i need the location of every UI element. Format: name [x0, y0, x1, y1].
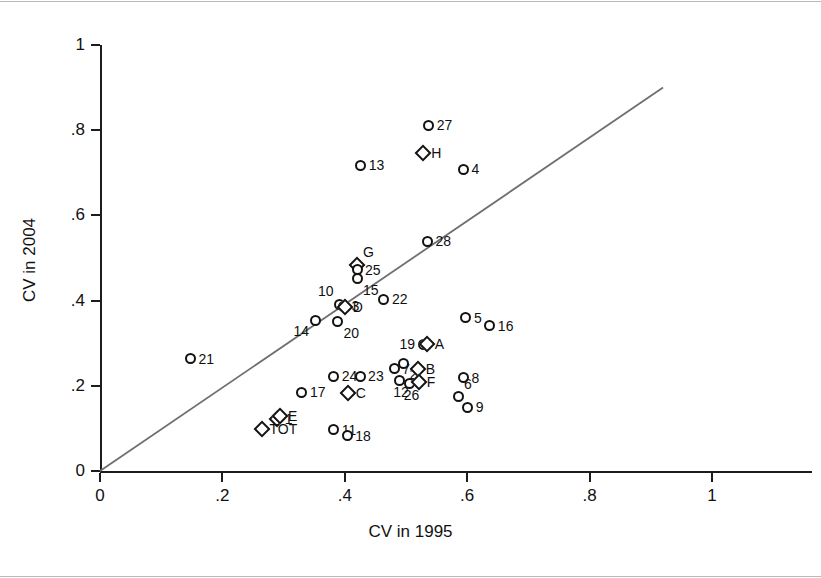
- x-axis-label: CV in 1995: [0, 522, 821, 542]
- x-tick-label: 1: [692, 487, 732, 504]
- x-tick-label: .4: [325, 487, 365, 504]
- circle-marker: [458, 164, 469, 175]
- point-label: 18: [355, 429, 371, 443]
- x-tick: [344, 473, 346, 482]
- circle-marker: [328, 424, 339, 435]
- point-label: C: [356, 386, 366, 400]
- point-label: 6: [464, 377, 472, 391]
- circle-marker: [310, 315, 321, 326]
- point-label: 21: [199, 352, 215, 366]
- circle-marker: [398, 358, 409, 369]
- circle-marker: [355, 160, 366, 171]
- y-tick-label: 1: [45, 36, 85, 53]
- y-tick-label: .4: [45, 292, 85, 309]
- diamond-marker: [339, 385, 356, 402]
- point-label: H: [431, 146, 441, 160]
- point-label: 25: [365, 263, 381, 277]
- x-tick: [221, 473, 223, 482]
- circle-marker: [355, 371, 366, 382]
- x-tick: [711, 473, 713, 482]
- x-axis-line: [100, 471, 812, 473]
- circle-marker: [462, 402, 473, 413]
- point-label: F: [427, 375, 436, 389]
- y-tick-label: .6: [45, 206, 85, 223]
- point-label: TOT: [270, 422, 298, 436]
- y-tick: [91, 44, 100, 46]
- circle-marker: [352, 273, 363, 284]
- point-label: 5: [474, 311, 482, 325]
- point-label: D: [353, 300, 363, 314]
- scatter-plot: 0.2.4.6.810.2.4.6.81 211327H428G25152210…: [0, 0, 821, 578]
- y-tick-label: .2: [45, 377, 85, 394]
- point-label: 8: [472, 371, 480, 385]
- circle-marker: [378, 294, 389, 305]
- y-tick-label: .8: [45, 121, 85, 138]
- circle-marker: [332, 316, 343, 327]
- point-label: 15: [363, 283, 379, 297]
- circle-marker: [185, 353, 196, 364]
- x-tick: [99, 473, 101, 482]
- point-label: 17: [310, 385, 326, 399]
- point-label: 22: [392, 292, 408, 306]
- y-tick: [91, 214, 100, 216]
- y-tick: [91, 129, 100, 131]
- circle-marker: [460, 312, 471, 323]
- point-label: 27: [437, 118, 453, 132]
- circle-marker: [484, 320, 495, 331]
- y-tick: [91, 385, 100, 387]
- point-label: G: [363, 245, 374, 259]
- circle-marker: [342, 430, 353, 441]
- diamond-marker: [415, 144, 432, 161]
- y-axis-line: [100, 45, 102, 473]
- point-label: 10: [318, 284, 334, 298]
- point-label: 13: [369, 158, 385, 172]
- x-tick: [466, 473, 468, 482]
- point-label: 20: [343, 326, 359, 340]
- circle-marker: [328, 371, 339, 382]
- circle-marker: [422, 236, 433, 247]
- x-tick-label: .8: [570, 487, 610, 504]
- point-label: 16: [498, 319, 514, 333]
- point-label: 26: [404, 388, 420, 402]
- x-tick: [589, 473, 591, 482]
- point-label: 4: [472, 162, 480, 176]
- circle-marker: [296, 387, 307, 398]
- circle-marker: [423, 120, 434, 131]
- point-label: 19: [400, 337, 416, 351]
- point-label: A: [435, 337, 444, 351]
- x-tick-label: .2: [202, 487, 242, 504]
- y-tick: [91, 300, 100, 302]
- chart-page: 0.2.4.6.810.2.4.6.81 211327H428G25152210…: [0, 0, 821, 578]
- point-label: 23: [368, 369, 384, 383]
- point-label: 9: [476, 400, 484, 414]
- point-label: 14: [293, 324, 309, 338]
- y-axis-label: CV in 2004: [20, 170, 40, 350]
- point-label: 28: [435, 234, 451, 248]
- y-tick: [91, 470, 100, 472]
- y-tick-label: 0: [45, 462, 85, 479]
- diamond-marker: [253, 421, 270, 438]
- x-tick-label: 0: [80, 487, 120, 504]
- circle-marker: [453, 391, 464, 402]
- x-tick-label: .6: [447, 487, 487, 504]
